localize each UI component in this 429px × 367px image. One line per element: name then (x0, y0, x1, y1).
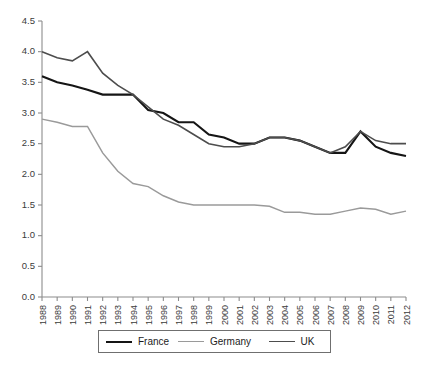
y-tick-label: 3.0 (22, 107, 35, 118)
x-tick-label: 2012 (402, 305, 412, 325)
x-tick-label: 1992 (98, 305, 108, 325)
y-tick-label: 4.0 (22, 45, 35, 56)
legend-swatch-icon (106, 341, 132, 343)
y-tick-label: 0.0 (22, 291, 35, 302)
x-tick-label: 2011 (386, 305, 396, 324)
x-tick-label: 2002 (250, 305, 260, 325)
y-tick-label: 1.0 (22, 229, 35, 240)
legend-label: Germany (210, 337, 251, 347)
x-tick-label: 1989 (53, 305, 63, 325)
x-tick-label: 1994 (129, 305, 139, 325)
x-tick-label: 2006 (311, 305, 321, 325)
y-tick-label: 4.5 (22, 15, 35, 26)
y-tick-label: 0.5 (22, 260, 35, 271)
line-chart: 0.00.51.01.52.02.53.03.54.04.51988198919… (0, 0, 429, 367)
x-tick-label: 1998 (189, 305, 199, 325)
x-tick-label: 2010 (371, 305, 381, 325)
legend-swatch-icon (178, 341, 204, 342)
legend-item-uk[interactable]: UK (253, 337, 330, 347)
plot-area: 0.00.51.01.52.02.53.03.54.04.51988198919… (0, 0, 429, 367)
legend-item-france[interactable]: France (99, 337, 176, 347)
x-tick-label: 1996 (159, 305, 169, 325)
x-tick-label: 1997 (174, 305, 184, 325)
x-tick-label: 2009 (356, 305, 366, 325)
y-tick-label: 3.5 (22, 76, 35, 87)
legend-item-germany[interactable]: Germany (176, 337, 253, 347)
series-line-france (42, 76, 406, 156)
x-tick-label: 1995 (144, 305, 154, 325)
x-tick-label: 2003 (265, 305, 275, 325)
x-tick-label: 2001 (235, 305, 245, 325)
x-tick-label: 2007 (326, 305, 336, 325)
x-tick-label: 2000 (220, 305, 230, 325)
x-tick-label: 2008 (341, 305, 351, 325)
x-tick-label: 1993 (113, 305, 123, 325)
chart-legend: FranceGermanyUK (98, 330, 331, 353)
legend-label: UK (301, 337, 315, 347)
x-tick-label: 2004 (280, 305, 290, 325)
y-tick-label: 2.0 (22, 168, 35, 179)
x-tick-label: 1991 (83, 305, 93, 325)
x-tick-label: 1999 (204, 305, 214, 325)
series-line-germany (42, 119, 406, 214)
y-tick-label: 1.5 (22, 199, 35, 210)
legend-swatch-icon (269, 341, 295, 342)
y-tick-label: 2.5 (22, 137, 35, 148)
legend-label: France (138, 337, 169, 347)
x-tick-label: 2005 (295, 305, 305, 325)
x-tick-label: 1988 (38, 305, 48, 325)
x-tick-label: 1990 (68, 305, 78, 325)
